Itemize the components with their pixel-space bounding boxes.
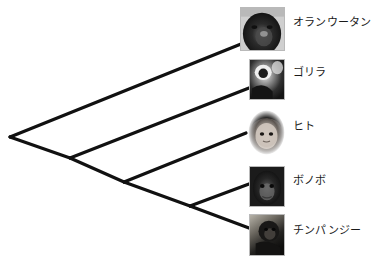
taxon-thumbnail-orangutan bbox=[240, 7, 285, 51]
branch-root-to-node-african-apes bbox=[10, 137, 70, 158]
gorilla-photo bbox=[250, 60, 284, 99]
branch-node-pan-to-bonobo bbox=[190, 184, 249, 206]
taxon-label-chimpanzee: チンパンジー bbox=[293, 225, 361, 237]
branch-node-african-apes-to-node-homininae bbox=[70, 158, 124, 182]
taxon-label-gorilla: ゴリラ bbox=[293, 67, 327, 79]
taxon-label-orangutan: オランウータン bbox=[293, 17, 371, 29]
phylogenetic-tree-figure: オランウータン ゴリラ ヒト ボノボ チンパンジー bbox=[0, 0, 373, 260]
taxon-thumbnail-human bbox=[248, 110, 285, 155]
chimpanzee-photo bbox=[250, 215, 284, 255]
tree-branch-lines bbox=[0, 0, 373, 260]
branch-node-pan-to-chimpanzee bbox=[190, 206, 249, 228]
branch-node-homininae-to-node-pan bbox=[124, 182, 190, 206]
taxon-thumbnail-chimpanzee bbox=[249, 214, 285, 256]
orangutan-photo bbox=[241, 8, 284, 50]
taxon-thumbnail-bonobo bbox=[249, 166, 285, 207]
branch-node-homininae-to-human bbox=[124, 133, 246, 182]
taxon-label-human: ヒト bbox=[293, 121, 315, 133]
branch-node-african-apes-to-gorilla bbox=[70, 88, 249, 158]
taxon-thumbnail-gorilla bbox=[249, 59, 285, 100]
taxon-label-bonobo: ボノボ bbox=[293, 175, 327, 187]
branch-root-to-orangutan bbox=[10, 42, 246, 137]
human-child-photo bbox=[248, 110, 285, 155]
bonobo-photo bbox=[250, 167, 284, 206]
